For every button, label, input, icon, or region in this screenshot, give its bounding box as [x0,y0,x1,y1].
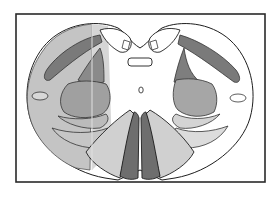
spinal-cord-diagram [0,0,280,199]
right-small-tract [230,94,246,102]
left-small-tract [32,92,48,100]
dorsal-septum-box [128,58,152,66]
left-ventral-horn [61,81,111,118]
right-ventral-horn [173,79,217,116]
diagram-canvas [0,0,280,199]
central-canal [139,87,143,93]
